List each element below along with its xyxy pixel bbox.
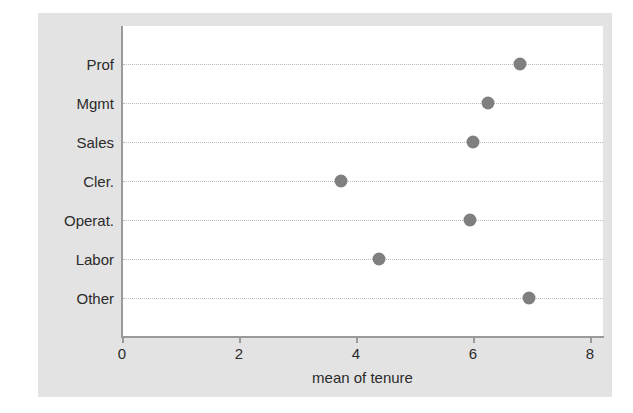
gridline bbox=[123, 64, 603, 65]
x-axis-title: mean of tenure bbox=[122, 369, 603, 386]
data-point-marker bbox=[373, 253, 386, 266]
data-point-marker bbox=[513, 58, 526, 71]
y-axis-tick-label: Operat. bbox=[14, 212, 114, 229]
gridline bbox=[123, 142, 603, 143]
x-axis-tick-label: 0 bbox=[102, 345, 142, 362]
y-axis-tick-label: Sales bbox=[14, 134, 114, 151]
x-axis-tick-label: 6 bbox=[453, 345, 493, 362]
y-axis-tick-label: Labor bbox=[14, 251, 114, 268]
x-axis-tick-label: 2 bbox=[219, 345, 259, 362]
x-axis-tick-mark bbox=[590, 337, 592, 343]
x-axis-tick-mark bbox=[122, 337, 124, 343]
gridline bbox=[123, 103, 603, 104]
y-axis-tick-label: Other bbox=[14, 290, 114, 307]
y-axis-tick-labels: ProfMgmtSalesCler.Operat.LaborOther bbox=[14, 0, 114, 413]
x-axis-tick-mark bbox=[356, 337, 358, 343]
data-point-marker bbox=[481, 97, 494, 110]
x-axis-tick-mark bbox=[239, 337, 241, 343]
x-axis-tick-label: 4 bbox=[336, 345, 376, 362]
data-point-marker bbox=[522, 292, 535, 305]
gridline bbox=[123, 259, 603, 260]
x-axis-line bbox=[121, 336, 604, 338]
x-axis-tick-mark bbox=[473, 337, 475, 343]
gridline bbox=[123, 181, 603, 182]
y-axis-tick-label: Cler. bbox=[14, 173, 114, 190]
gridline bbox=[123, 220, 603, 221]
data-point-marker bbox=[464, 214, 477, 227]
data-point-marker bbox=[335, 175, 348, 188]
data-point-marker bbox=[467, 136, 480, 149]
x-axis-tick-label: 8 bbox=[570, 345, 610, 362]
y-axis-tick-label: Prof bbox=[14, 56, 114, 73]
y-axis-tick-label: Mgmt bbox=[14, 95, 114, 112]
